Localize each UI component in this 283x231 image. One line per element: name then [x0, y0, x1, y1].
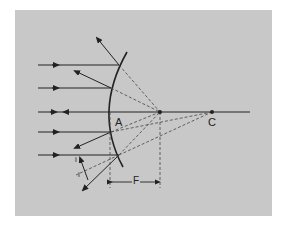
reflected-ray-1: [97, 38, 119, 65]
label-focal-length: F: [133, 176, 139, 186]
reflected-ray-4: [75, 132, 111, 148]
label-vertex: A: [115, 117, 122, 128]
focus-point: [158, 110, 162, 114]
mirror-diagram: [0, 0, 283, 231]
reflected-ray-2: [75, 71, 111, 88]
label-angle-i1: i: [75, 156, 77, 164]
center-point: [210, 110, 214, 114]
label-angle-i2: i: [78, 171, 80, 179]
reflected-ray-5: [83, 155, 119, 190]
label-center: C: [208, 117, 216, 128]
